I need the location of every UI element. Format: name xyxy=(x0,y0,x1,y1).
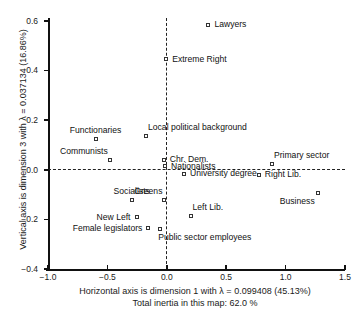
data-point-marker xyxy=(130,198,134,202)
y-axis-tick xyxy=(44,169,49,171)
x-axis-tick xyxy=(47,265,49,270)
data-point-label: Business xyxy=(280,197,315,206)
data-point-marker xyxy=(182,172,186,176)
data-point-marker xyxy=(135,215,139,219)
data-point-label: Lawyers xyxy=(214,20,246,29)
x-axis-tick-label: −1.0 xyxy=(31,273,65,282)
y-axis-title: Vertical axis is dimension 3 with λ = 0.… xyxy=(19,15,28,265)
data-point-marker xyxy=(158,227,162,231)
data-point-marker xyxy=(94,137,98,141)
x-axis-tick xyxy=(225,265,227,270)
data-point-marker xyxy=(316,191,320,195)
y-axis-tick xyxy=(44,20,49,22)
data-point-label: New Left xyxy=(97,213,131,222)
data-point-marker xyxy=(206,23,210,27)
x-axis-tick-label: −0.5 xyxy=(90,273,124,282)
y-axis-tick xyxy=(44,119,49,121)
data-point-label: Extreme Right xyxy=(172,55,226,64)
x-axis-tick-label: 1.5 xyxy=(328,273,360,282)
data-point-marker xyxy=(164,57,168,61)
cropped-caption-fragment xyxy=(6,315,346,318)
data-point-marker xyxy=(257,173,261,177)
x-axis-tick xyxy=(166,265,168,270)
x-axis-tick-label: 0.5 xyxy=(209,273,243,282)
data-point-label: Primary sector xyxy=(274,151,329,160)
data-point-marker xyxy=(162,198,166,202)
data-point-label: Communists xyxy=(60,147,108,156)
x-axis-tick xyxy=(344,265,346,270)
data-point-marker xyxy=(270,162,274,166)
data-point-label: Public sector employees xyxy=(158,233,251,242)
data-point-label: Left Lib. xyxy=(193,203,224,212)
data-point-label: Greens xyxy=(134,187,162,196)
data-point-marker xyxy=(108,158,112,162)
total-inertia-note: Total inertia in this map: 62.0 % xyxy=(30,298,360,308)
correspondence-analysis-scatter-plot: 0.60.40.20.0−0.2−0.4−1.0−0.50.00.51.01.5… xyxy=(0,0,360,320)
x-axis-title: Horizontal axis is dimension 1 with λ = … xyxy=(30,286,360,296)
data-point-marker xyxy=(163,164,167,168)
data-point-label: Right Lib. xyxy=(265,170,301,179)
data-point-label: Functionaries xyxy=(70,126,122,135)
x-axis-tick xyxy=(285,265,287,270)
data-point-marker xyxy=(189,214,193,218)
data-point-marker xyxy=(162,158,166,162)
data-point-label: Female legislators xyxy=(73,224,143,233)
data-point-label: Local political background xyxy=(148,123,247,132)
data-point-marker xyxy=(146,226,150,230)
y-axis-tick xyxy=(44,70,49,72)
y-axis-tick xyxy=(44,219,49,221)
x-axis-tick xyxy=(107,265,109,270)
y-axis-tick-label: −0.4 xyxy=(8,265,38,274)
x-axis-tick-label: 0.0 xyxy=(150,273,184,282)
x-axis-tick-label: 1.0 xyxy=(269,273,303,282)
y-axis-line xyxy=(48,18,50,270)
data-point-label: University degree xyxy=(190,169,257,178)
data-point-marker xyxy=(144,134,148,138)
x-axis-line xyxy=(46,269,345,271)
